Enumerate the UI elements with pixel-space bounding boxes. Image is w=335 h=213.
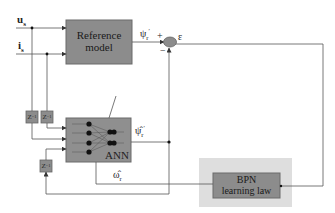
plus-sign: + [157,31,163,41]
psi-superscript: ′ [148,27,149,34]
psi-hat-superscript: ′ [143,124,144,131]
input-u-s-label: us [17,14,26,25]
bpn-learning-law-label: BPN learning law [213,173,280,198]
delay-label-2: Z−1 [41,111,53,123]
error-epsilon-label: ε [178,32,182,42]
omega-r-estimate-label: ω̂r [113,170,122,180]
i-subscript: s [21,46,24,54]
mras-ann-diagram [0,0,335,213]
psi-hat-subscript: r [141,131,143,138]
omega-hat-subscript: r [120,175,122,182]
reference-model-line2: model [85,42,113,54]
ann-label: ANN [105,150,129,161]
delay-label-1: Z−1 [26,111,38,123]
psi-r-estimate-label: ψ̂r′ [135,126,145,136]
omega-hat-symbol: ω̂ [113,169,120,180]
reference-model-label: Reference model [66,20,132,64]
bpn-line1: BPN [237,175,256,186]
delay-label-3: Z−1 [40,160,52,172]
u-subscript: s [23,20,26,28]
minus-sign: − [160,46,166,56]
psi-subscript: r [146,34,148,41]
input-i-s-label: is [18,40,24,51]
psi-r-reference-label: ψr′ [140,29,150,39]
bpn-line2: learning law [222,186,272,197]
